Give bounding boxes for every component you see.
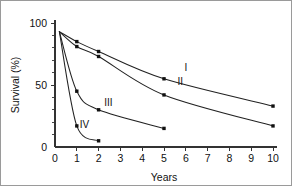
x-axis-tick-label: 8 [226,152,232,164]
data-point-marker [271,104,274,107]
x-axis-tick-label: 2 [96,152,102,164]
data-point-marker [162,127,165,130]
x-axis-title: Years [151,171,177,183]
data-point-marker [162,77,165,80]
x-axis-tick-label: 9 [248,152,254,164]
curve-label-IV: IV [80,119,90,130]
x-axis-tick-label: 1 [74,152,80,164]
survival-curves-figure: 012345678910050100YearsSurvival (%)IIIII… [0,0,292,186]
survival-curve-II [59,32,273,126]
survival-curve-III [59,32,164,129]
curve-label-I: I [184,62,187,73]
data-point-marker [97,108,100,111]
x-axis-tick-label: 4 [139,152,145,164]
data-point-marker [75,124,78,127]
y-axis-tick-label: 100 [29,17,47,29]
y-axis-title: Survival (%) [9,57,21,114]
x-axis-tick-label: 3 [117,152,123,164]
y-axis-tick-label: 50 [35,79,47,91]
x-axis-tick-label: 5 [161,152,167,164]
data-point-marker [75,40,78,43]
curve-label-II: II [178,76,184,87]
survival-chart: 012345678910050100YearsSurvival (%)IIIII… [1,1,292,186]
survival-curve-I [59,32,273,106]
curve-label-III: III [104,97,112,108]
data-point-marker [271,124,274,127]
x-axis-tick-label: 0 [52,152,58,164]
data-point-marker [97,139,100,142]
data-point-marker [75,45,78,48]
x-axis-tick-label: 6 [183,152,189,164]
data-point-marker [97,50,100,53]
data-point-marker [162,93,165,96]
y-axis-tick-label: 0 [41,141,47,153]
x-axis-tick-label: 10 [267,152,279,164]
data-point-marker [97,55,100,58]
x-axis-tick-label: 7 [205,152,211,164]
data-point-marker [75,90,78,93]
